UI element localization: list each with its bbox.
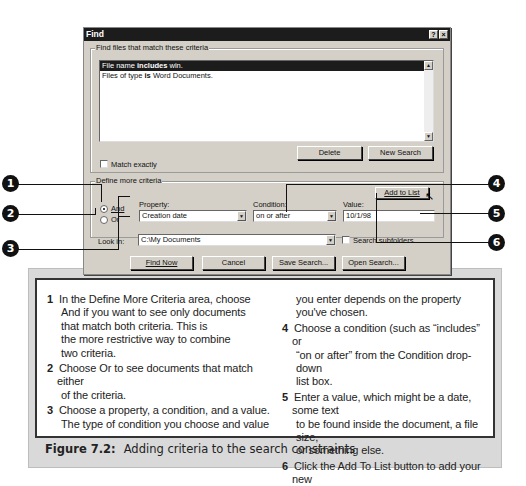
step-1: 1 In the Define More Criteria area, choo…	[47, 293, 277, 360]
steps-left-column: 1 In the Define More Criteria area, choo…	[47, 293, 277, 433]
callout-2: 2	[2, 205, 19, 222]
callout-3-line	[118, 196, 130, 197]
scroll-up-icon[interactable]: ▲	[424, 61, 433, 70]
step-3-continued: you enter depends on the property you've…	[282, 293, 492, 320]
cancel-button[interactable]: Cancel	[202, 256, 265, 270]
criteria-list-item[interactable]: File name includes win.	[100, 61, 433, 71]
add-to-list-button[interactable]: Add to List	[375, 187, 429, 199]
or-radio[interactable]	[100, 216, 108, 224]
close-button[interactable]: ×	[439, 30, 448, 39]
callout-5: 5	[488, 205, 505, 222]
caption-label: Figure 7.2:	[45, 442, 116, 456]
callout-2-line	[16, 214, 96, 215]
callout-5-line	[420, 213, 496, 214]
callout-3-line	[118, 196, 119, 250]
callout-6: 6	[488, 234, 505, 251]
criteria-list-scrollbar[interactable]: ▲ ▼	[424, 61, 433, 141]
chevron-down-icon[interactable]: ▼	[237, 211, 246, 221]
step-3: 3 Choose a property, a condition, and a …	[47, 404, 277, 431]
value-label: Value:	[343, 200, 364, 209]
callout-3: 3	[2, 240, 19, 257]
property-dropdown[interactable]: Creation date ▼	[139, 210, 247, 222]
property-label: Property:	[139, 200, 169, 209]
callout-3-line	[118, 216, 130, 217]
criteria-group: Find files that match these criteria Fil…	[90, 48, 444, 173]
figure-caption: Figure 7.2:Adding criteria to the search…	[45, 442, 355, 456]
instructions-box: 1 In the Define More Criteria area, choo…	[35, 278, 495, 438]
steps-right-column: you enter depends on the property you've…	[282, 293, 492, 486]
match-exactly-label: Match exactly	[111, 160, 157, 169]
condition-label: Condition:	[253, 200, 287, 209]
and-radio[interactable]	[100, 205, 108, 213]
new-search-button[interactable]: New Search	[368, 146, 433, 160]
find-dialog: Find ? × Find files that match these cri…	[83, 27, 451, 275]
open-search-button[interactable]: Open Search...	[342, 256, 405, 270]
step-4: 4 Choose a condition (such as “includes”…	[282, 322, 492, 389]
callout-1-line	[16, 184, 102, 185]
close-icon: ×	[441, 31, 445, 38]
define-criteria-group: Define more criteria And Or Property: Cr…	[90, 181, 444, 238]
criteria-list[interactable]: File name includes win. Files of type is…	[99, 60, 434, 142]
callout-1: 1	[2, 175, 19, 192]
match-exactly-checkbox[interactable]	[100, 160, 108, 168]
title-bar[interactable]: Find ? ×	[84, 28, 450, 41]
chevron-down-icon[interactable]: ▼	[327, 211, 336, 221]
delete-button[interactable]: Delete	[297, 146, 362, 160]
caption-text: Adding criteria to the search constraint…	[124, 442, 356, 456]
search-subfolders-checkbox[interactable]	[342, 236, 350, 244]
scroll-down-icon[interactable]: ▼	[424, 132, 433, 141]
callout-6-line	[376, 193, 377, 243]
dialog-title: Find	[86, 29, 104, 39]
callout-2-line	[95, 208, 96, 215]
mouse-cursor-icon: ↖	[425, 190, 434, 203]
figure-frame: 1 In the Define More Criteria area, choo…	[28, 268, 502, 468]
find-now-button[interactable]: Find Now	[130, 256, 193, 270]
value-input[interactable]: 10/1/98	[343, 210, 435, 222]
callout-3-line	[16, 249, 118, 250]
chevron-down-icon[interactable]: ▼	[326, 235, 335, 245]
save-search-button[interactable]: Save Search...	[272, 256, 335, 270]
help-icon: ?	[431, 31, 435, 38]
look-in-dropdown[interactable]: C:\My Documents ▼	[138, 234, 336, 246]
callout-1-line	[101, 184, 102, 202]
callout-4-line	[286, 184, 287, 212]
callout-6-line	[376, 242, 496, 243]
criteria-list-item[interactable]: Files of type is Word Documents.	[100, 71, 433, 81]
look-in-label: Look in:	[98, 237, 124, 246]
step-2: 2 Choose Or to see documents that match …	[47, 362, 277, 402]
condition-dropdown[interactable]: on or after ▼	[253, 210, 337, 222]
callout-4: 4	[488, 175, 505, 192]
search-subfolders-label: Search subfolders	[353, 236, 413, 245]
callout-4-line	[286, 184, 496, 185]
help-button[interactable]: ?	[429, 30, 438, 39]
step-6: 6 Click the Add To List button to add yo…	[282, 460, 492, 486]
